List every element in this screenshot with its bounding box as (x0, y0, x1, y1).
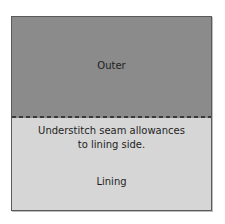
understitch-instruction: Understitch seam allowances to lining si… (12, 124, 211, 152)
seam-diagram: Outer Understitch seam allowances to lin… (11, 16, 212, 211)
lining-label: Lining (12, 175, 211, 189)
lining-fabric-panel: Understitch seam allowances to lining si… (12, 118, 211, 210)
outer-label: Outer (12, 59, 211, 73)
outer-fabric-panel: Outer (12, 17, 211, 116)
cropped-caption (0, 0, 225, 3)
